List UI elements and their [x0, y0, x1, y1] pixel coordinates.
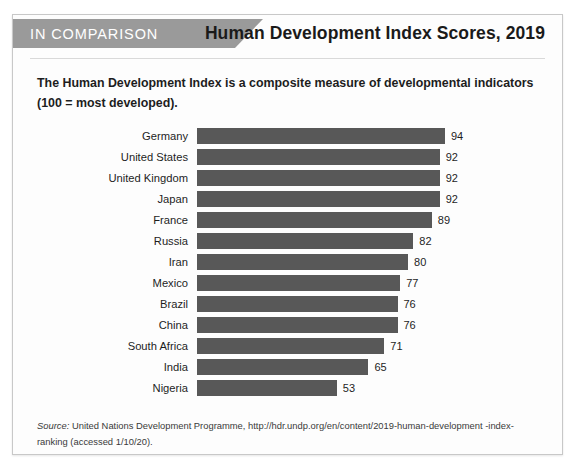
bar-row: Iran80	[13, 251, 562, 272]
bar-track: 76	[197, 296, 562, 312]
card-header: IN COMPARISON Human Development Index Sc…	[13, 15, 562, 55]
bar-value-label: 76	[404, 298, 416, 310]
bar-row: India65	[13, 356, 562, 377]
bar-track: 82	[197, 233, 562, 249]
bar-category-label: Brazil	[13, 298, 197, 310]
bar-row: Japan92	[13, 188, 562, 209]
bar-fill	[197, 338, 384, 354]
bar-track: 76	[197, 317, 562, 333]
bar-chart: Germany94United States92United Kingdom92…	[13, 125, 562, 398]
bar-fill	[197, 212, 432, 228]
bar-track: 77	[197, 275, 562, 291]
bar-track: 71	[197, 338, 562, 354]
bar-row: United States92	[13, 146, 562, 167]
eyebrow-label: IN COMPARISON	[13, 26, 158, 42]
bar-fill	[197, 170, 440, 186]
infographic-card: IN COMPARISON Human Development Index Sc…	[12, 14, 563, 455]
bar-value-label: 92	[446, 172, 458, 184]
bar-value-label: 92	[446, 193, 458, 205]
bar-track: 65	[197, 359, 562, 375]
bar-category-label: Iran	[13, 256, 197, 268]
bar-row: Russia82	[13, 230, 562, 251]
bar-row: South Africa71	[13, 335, 562, 356]
bar-track: 94	[197, 128, 562, 144]
bar-fill	[197, 191, 440, 207]
bar-category-label: United Kingdom	[13, 172, 197, 184]
bar-fill	[197, 254, 408, 270]
bar-value-label: 80	[414, 256, 426, 268]
bar-fill	[197, 359, 368, 375]
bar-row: China76	[13, 314, 562, 335]
page-title: Human Development Index Scores, 2019	[205, 23, 545, 44]
bar-track: 80	[197, 254, 562, 270]
bar-category-label: South Africa	[13, 340, 197, 352]
bar-value-label: 82	[419, 235, 431, 247]
bar-category-label: France	[13, 214, 197, 226]
chart-subtitle: The Human Development Index is a composi…	[37, 73, 537, 113]
bar-row: Germany94	[13, 125, 562, 146]
bar-category-label: China	[13, 319, 197, 331]
bar-value-label: 76	[404, 319, 416, 331]
bar-value-label: 89	[438, 214, 450, 226]
source-text: United Nations Development Programme, ht…	[37, 420, 514, 447]
bar-track: 92	[197, 170, 562, 186]
bar-value-label: 77	[406, 277, 418, 289]
bar-category-label: Mexico	[13, 277, 197, 289]
bar-fill	[197, 380, 337, 396]
source-note: Source: United Nations Development Progr…	[37, 418, 542, 450]
bar-value-label: 71	[390, 340, 402, 352]
bar-value-label: 94	[451, 130, 463, 142]
bar-fill	[197, 233, 413, 249]
header-divider	[30, 58, 545, 59]
bar-row: Brazil76	[13, 293, 562, 314]
bar-category-label: Russia	[13, 235, 197, 247]
bar-fill	[197, 275, 400, 291]
bar-track: 53	[197, 380, 562, 396]
bar-category-label: United States	[13, 151, 197, 163]
source-label: Source:	[37, 420, 69, 431]
bar-row: Mexico77	[13, 272, 562, 293]
bar-category-label: Germany	[13, 130, 197, 142]
bar-value-label: 65	[374, 361, 386, 373]
bar-track: 89	[197, 212, 562, 228]
bar-row: United Kingdom92	[13, 167, 562, 188]
bar-track: 92	[197, 149, 562, 165]
bar-category-label: Nigeria	[13, 382, 197, 394]
bar-track: 92	[197, 191, 562, 207]
bar-fill	[197, 296, 398, 312]
bar-row: Nigeria53	[13, 377, 562, 398]
bar-category-label: Japan	[13, 193, 197, 205]
bar-row: France89	[13, 209, 562, 230]
bar-fill	[197, 149, 440, 165]
bar-value-label: 92	[446, 151, 458, 163]
bar-fill	[197, 317, 398, 333]
bar-fill	[197, 128, 445, 144]
bar-category-label: India	[13, 361, 197, 373]
bar-value-label: 53	[343, 382, 355, 394]
